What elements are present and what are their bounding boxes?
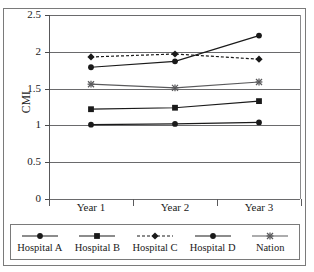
data-point-marker (88, 64, 94, 70)
data-point-marker (256, 120, 262, 126)
chart-figure: CMI 2.521.510.50 Year 1Year 2Year 3 Hosp… (0, 0, 314, 272)
legend-item-hospital-d[interactable]: Hospital D (184, 225, 242, 259)
data-point-marker (88, 81, 95, 88)
data-point-marker (172, 58, 178, 64)
legend-item-nation[interactable]: Nation (241, 225, 299, 259)
chart-legend: Hospital AHospital BHospital CHospital D… (10, 224, 300, 260)
data-point-marker (87, 53, 94, 60)
data-point-marker (172, 105, 178, 111)
data-point-marker (256, 98, 262, 104)
data-series-layer (0, 0, 314, 215)
legend-marker-circle-icon (18, 228, 62, 240)
data-point-marker (255, 56, 262, 63)
legend-label: Hospital D (190, 241, 236, 254)
legend-label: Hospital A (17, 241, 62, 254)
legend-label: Hospital C (132, 241, 177, 254)
data-point-marker (256, 33, 262, 39)
legend-marker-square-icon (75, 228, 119, 240)
legend-item-hospital-a[interactable]: Hospital A (11, 225, 69, 259)
legend-item-hospital-c[interactable]: Hospital C (126, 225, 184, 259)
legend-label: Hospital B (75, 241, 120, 254)
legend-label: Nation (256, 241, 285, 254)
series-hospital-d (88, 120, 262, 128)
legend-marker-circle-icon (191, 228, 235, 240)
data-point-marker (172, 121, 178, 127)
series-nation (88, 79, 263, 92)
data-point-marker (171, 50, 178, 57)
legend-item-hospital-b[interactable]: Hospital B (69, 225, 127, 259)
data-point-marker (88, 106, 94, 112)
series-hospital-b (88, 98, 262, 112)
legend-marker-x-icon (248, 228, 292, 240)
chart-plot-region: CMI 2.521.510.50 Year 1Year 2Year 3 (0, 0, 314, 215)
legend-marker-diamond-icon (133, 228, 177, 240)
data-point-marker (172, 84, 179, 91)
data-point-marker (256, 79, 263, 86)
data-point-marker (88, 122, 94, 128)
